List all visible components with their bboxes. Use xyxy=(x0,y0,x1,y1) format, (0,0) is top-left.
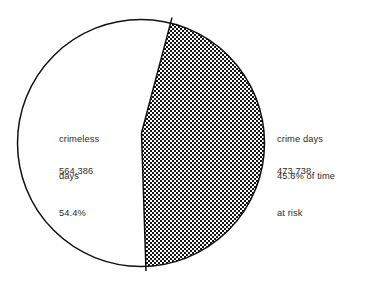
slice-label-crime-days-line1: crime days xyxy=(277,133,335,145)
pie-chart-figure: crimeless days 54.4% 564,386 crime days … xyxy=(0,0,371,289)
slice-label-crimeless-days-line3: 54.4% xyxy=(59,207,99,219)
slice-label-crimeless-days-line1: crimeless xyxy=(59,133,99,145)
slice-value-crimeless-days: 564,386 xyxy=(59,165,93,177)
slice-label-crime-days-line3: at risk xyxy=(277,207,335,219)
slice-value-crime-days: 473,738 xyxy=(277,165,311,177)
